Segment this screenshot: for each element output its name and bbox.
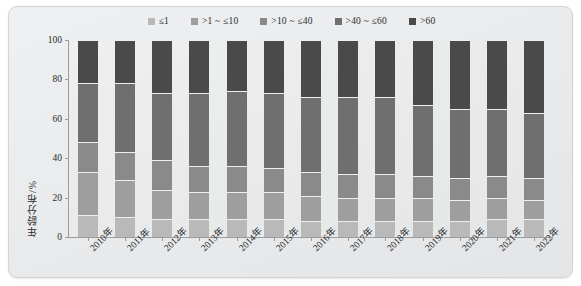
x-label-slot: 2014年 <box>218 240 255 280</box>
bar-segment[interactable] <box>152 40 172 93</box>
bar-segment[interactable] <box>524 113 544 178</box>
bar-segment[interactable] <box>487 198 507 220</box>
bar-segment[interactable] <box>301 172 321 196</box>
bar-slot <box>330 40 367 237</box>
bar-segment[interactable] <box>189 192 209 220</box>
stacked-bar[interactable] <box>338 40 358 237</box>
bar-slot <box>106 40 143 237</box>
bar-slot <box>218 40 255 237</box>
stacked-bar[interactable] <box>227 40 247 237</box>
bar-segment[interactable] <box>115 152 135 180</box>
bar-segment[interactable] <box>487 40 507 109</box>
legend-swatch-icon <box>148 18 155 25</box>
bar-segment[interactable] <box>524 178 544 200</box>
bar-segment[interactable] <box>450 109 470 178</box>
x-label-slot: 2018年 <box>367 240 404 280</box>
y-tick-label: 20 <box>53 193 63 203</box>
y-tick-label: 60 <box>53 114 63 124</box>
bar-segment[interactable] <box>264 192 284 220</box>
bar-segment[interactable] <box>227 40 247 91</box>
x-label-slot: 2022年 <box>516 240 553 280</box>
bar-segment[interactable] <box>264 40 284 93</box>
bar-segment[interactable] <box>189 93 209 166</box>
x-label-slot: 2010年 <box>69 240 106 280</box>
bar-segment[interactable] <box>227 192 247 220</box>
bar-segment[interactable] <box>375 40 395 97</box>
x-label-slot: 2021年 <box>479 240 516 280</box>
bar-segment[interactable] <box>301 97 321 172</box>
bar-segment[interactable] <box>115 83 135 152</box>
legend-swatch-icon <box>335 18 342 25</box>
bar-segment[interactable] <box>487 176 507 198</box>
bar-segment[interactable] <box>78 83 98 142</box>
bar-segment[interactable] <box>152 190 172 220</box>
bar-slot <box>441 40 478 237</box>
bar-segment[interactable] <box>375 174 395 198</box>
stacked-bar[interactable] <box>115 40 135 237</box>
bar-segment[interactable] <box>524 200 544 220</box>
bar-slot <box>292 40 329 237</box>
bar-segment[interactable] <box>115 180 135 217</box>
bar-segment[interactable] <box>227 166 247 192</box>
bar-segment[interactable] <box>338 198 358 222</box>
stacked-bar[interactable] <box>264 40 284 237</box>
bar-slot <box>404 40 441 237</box>
x-label-slot: 2017年 <box>330 240 367 280</box>
stacked-bar[interactable] <box>189 40 209 237</box>
bar-segment[interactable] <box>338 174 358 198</box>
legend-item: >10 ~ ≤40 <box>260 17 312 27</box>
bar-segment[interactable] <box>450 178 470 200</box>
stacked-bar[interactable] <box>524 40 544 237</box>
bar-slot <box>516 40 553 237</box>
y-tick-label: 80 <box>53 74 63 84</box>
bar-segment[interactable] <box>115 40 135 83</box>
bar-segment[interactable] <box>189 166 209 192</box>
bar-segment[interactable] <box>264 93 284 168</box>
legend-item-label: >1 ~ ≤10 <box>202 17 238 27</box>
bar-segment[interactable] <box>338 40 358 97</box>
bar-segment[interactable] <box>264 168 284 192</box>
stacked-bar[interactable] <box>78 40 98 237</box>
bar-segment[interactable] <box>487 109 507 176</box>
bar-segment[interactable] <box>413 176 433 198</box>
bar-segment[interactable] <box>78 40 98 83</box>
legend-swatch-icon <box>409 18 416 25</box>
bar-slot <box>69 40 106 237</box>
bar-segment[interactable] <box>413 105 433 176</box>
stacked-bar[interactable] <box>301 40 321 237</box>
bar-segment[interactable] <box>413 40 433 105</box>
stacked-bar[interactable] <box>413 40 433 237</box>
bar-segment[interactable] <box>375 198 395 222</box>
legend-item-label: >60 <box>420 17 435 27</box>
bar-slot <box>367 40 404 237</box>
stacked-bar[interactable] <box>152 40 172 237</box>
bar-segment[interactable] <box>227 91 247 166</box>
bar-segment[interactable] <box>338 97 358 174</box>
bar-segment[interactable] <box>450 200 470 222</box>
bar-group <box>69 40 553 237</box>
x-label-slot: 2016年 <box>292 240 329 280</box>
stacked-bar[interactable] <box>487 40 507 237</box>
legend-item-label: ≤1 <box>159 17 169 27</box>
chart-legend: ≤1>1 ~ ≤10>10 ~ ≤40>40 ~ ≤60>60 <box>9 17 574 27</box>
y-tick-label: 100 <box>48 35 62 45</box>
bar-segment[interactable] <box>152 93 172 160</box>
bar-segment[interactable] <box>450 40 470 109</box>
bar-slot <box>181 40 218 237</box>
bar-slot <box>255 40 292 237</box>
bar-slot <box>479 40 516 237</box>
bar-segment[interactable] <box>413 198 433 222</box>
bar-segment[interactable] <box>152 160 172 190</box>
legend-item: ≤1 <box>148 17 169 27</box>
bar-segment[interactable] <box>375 97 395 174</box>
bar-segment[interactable] <box>524 40 544 113</box>
bar-segment[interactable] <box>78 142 98 172</box>
stacked-bar[interactable] <box>375 40 395 237</box>
x-label-slot: 2013年 <box>181 240 218 280</box>
stacked-bar[interactable] <box>450 40 470 237</box>
bar-segment[interactable] <box>301 40 321 97</box>
bar-segment[interactable] <box>301 196 321 222</box>
bar-segment[interactable] <box>189 40 209 93</box>
y-axis-title: 年龄分布/% <box>25 40 40 237</box>
bar-segment[interactable] <box>78 172 98 215</box>
